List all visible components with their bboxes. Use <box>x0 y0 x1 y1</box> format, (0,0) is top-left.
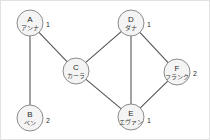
graph-node-c[interactable]: Cカーラ <box>63 58 89 84</box>
graph-node-e[interactable]: Eエヴァン1 <box>118 104 151 130</box>
node-name-b: ベン <box>24 119 36 126</box>
node-name-c: カーラ <box>67 72 85 79</box>
node-badge-d: 1 <box>147 21 151 28</box>
node-letter-c: C <box>73 63 79 72</box>
node-badge-a: 1 <box>46 21 50 28</box>
node-name-e: エヴァン <box>119 118 143 126</box>
node-badge-f: 2 <box>193 70 197 77</box>
graph-svg: Aアンナ1Bベン2CカーラDダナ1Eエヴァン1Fフランク2 <box>1 1 210 140</box>
node-name-d: ダナ <box>125 24 137 32</box>
graph-node-a[interactable]: Aアンナ1 <box>17 10 50 36</box>
nodes-layer: Aアンナ1Bベン2CカーラDダナ1Eエヴァン1Fフランク2 <box>17 10 197 131</box>
node-name-f: フランク <box>165 73 189 80</box>
graph-edge-c-d <box>86 32 121 63</box>
edges-layer <box>30 32 168 109</box>
node-badge-e: 1 <box>147 117 151 124</box>
graph-edge-e-f <box>140 81 167 108</box>
node-letter-b: B <box>27 110 32 119</box>
node-name-a: アンナ <box>21 24 39 31</box>
graph-edge-a-c <box>39 32 67 61</box>
graph-node-b[interactable]: Bベン2 <box>17 105 50 131</box>
node-badge-b: 2 <box>46 117 50 124</box>
node-letter-a: A <box>27 15 33 24</box>
graph-diagram-canvas: Aアンナ1Bベン2CカーラDダナ1Eエヴァン1Fフランク2 <box>0 0 210 140</box>
node-letter-e: E <box>128 109 133 118</box>
graph-edge-d-f <box>140 32 168 62</box>
graph-node-d[interactable]: Dダナ1 <box>118 10 151 36</box>
node-letter-d: D <box>128 15 134 24</box>
graph-node-f[interactable]: Fフランク2 <box>164 59 197 85</box>
graph-edge-c-e <box>86 79 121 108</box>
node-letter-f: F <box>175 64 180 73</box>
